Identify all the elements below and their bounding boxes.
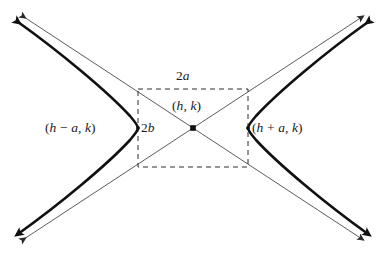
label-center-point: (h, k) <box>172 99 201 113</box>
vertex-right-dot <box>246 126 250 130</box>
label-conjugate-axis-2b: 2b <box>141 121 155 135</box>
center-point-dot <box>190 125 196 131</box>
label-vertex-right: (h + a, k) <box>252 121 303 135</box>
label-vertex-left: (h − a, k) <box>45 121 96 135</box>
hyperbola-figure: (h − a, k) 2b (h + a, k) 2a (h, k) <box>0 0 378 261</box>
vertex-left-dot <box>136 126 140 130</box>
label-transverse-axis-2a: 2a <box>176 69 190 83</box>
